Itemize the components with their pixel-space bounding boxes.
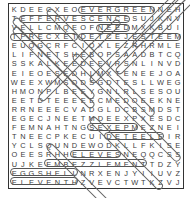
grid-cell[interactable]: E <box>156 32 165 41</box>
grid-cell[interactable]: V <box>87 178 96 187</box>
grid-cell[interactable]: E <box>113 96 122 105</box>
grid-cell[interactable]: E <box>19 14 28 23</box>
grid-cell[interactable]: Q <box>139 151 148 160</box>
grid-cell[interactable]: E <box>148 114 157 123</box>
grid-cell[interactable]: C <box>36 114 45 123</box>
grid-cell[interactable]: Z <box>122 41 131 50</box>
grid-cell[interactable]: E <box>113 114 122 123</box>
grid-cell[interactable]: S <box>87 123 96 132</box>
grid-cell[interactable]: Z <box>79 160 88 169</box>
grid-cell[interactable]: D <box>156 160 165 169</box>
grid-cell[interactable]: L <box>87 69 96 78</box>
grid-cell[interactable]: N <box>113 169 122 178</box>
grid-cell[interactable]: N <box>165 14 174 23</box>
grid-cell[interactable]: V <box>87 5 96 14</box>
grid-cell[interactable]: V <box>165 178 174 187</box>
grid-cell[interactable]: E <box>19 96 28 105</box>
grid-cell[interactable]: E <box>70 60 79 69</box>
grid-cell[interactable]: E <box>62 32 71 41</box>
grid-cell[interactable]: G <box>36 41 45 50</box>
grid-cell[interactable]: O <box>27 87 36 96</box>
grid-cell[interactable]: R <box>53 14 62 23</box>
grid-cell[interactable]: E <box>165 5 174 14</box>
grid-cell[interactable]: D <box>122 96 131 105</box>
grid-cell[interactable]: E <box>139 123 148 132</box>
grid-cell[interactable]: G <box>27 169 36 178</box>
grid-cell[interactable]: D <box>156 105 165 114</box>
grid-cell[interactable]: V <box>165 60 174 69</box>
grid-cell[interactable]: L <box>53 87 62 96</box>
grid-cell[interactable]: C <box>70 41 79 50</box>
grid-cell[interactable]: W <box>10 78 19 87</box>
grid-cell[interactable]: O <box>79 23 88 32</box>
grid-cell[interactable]: Q <box>148 151 157 160</box>
grid-cell[interactable]: U <box>53 142 62 151</box>
grid-cell[interactable]: E <box>10 114 19 123</box>
grid-cell[interactable]: O <box>96 51 105 60</box>
grid-cell[interactable]: E <box>70 87 79 96</box>
grid-cell[interactable]: D <box>139 51 148 60</box>
grid-cell[interactable]: E <box>44 105 53 114</box>
grid-cell[interactable]: L <box>130 87 139 96</box>
grid-cell[interactable]: T <box>96 32 105 41</box>
grid-cell[interactable]: E <box>70 14 79 23</box>
grid-cell[interactable]: N <box>156 5 165 14</box>
grid-cell[interactable]: E <box>87 32 96 41</box>
grid-cell[interactable]: E <box>19 123 28 132</box>
grid-cell[interactable]: N <box>36 123 45 132</box>
grid-cell[interactable]: Z <box>173 169 182 178</box>
grid-cell[interactable]: H <box>79 69 88 78</box>
grid-cell[interactable]: E <box>36 132 45 141</box>
grid-cell[interactable]: M <box>19 87 28 96</box>
grid-cell[interactable]: W <box>87 142 96 151</box>
grid-cell[interactable]: T <box>79 114 88 123</box>
grid-cell[interactable]: Z <box>79 178 88 187</box>
grid-cell[interactable]: J <box>122 169 131 178</box>
grid-cell[interactable]: K <box>10 5 19 14</box>
grid-cell[interactable]: L <box>36 23 45 32</box>
grid-cell[interactable]: M <box>53 160 62 169</box>
grid-cell[interactable]: D <box>36 96 45 105</box>
grid-cell[interactable]: R <box>27 32 36 41</box>
grid-cell[interactable]: O <box>165 69 174 78</box>
grid-cell[interactable]: N <box>156 123 165 132</box>
grid-cell[interactable]: K <box>53 60 62 69</box>
grid-cell[interactable]: C <box>113 178 122 187</box>
grid-cell[interactable]: E <box>165 123 174 132</box>
grid-cell[interactable]: A <box>79 105 88 114</box>
grid-cell[interactable]: E <box>122 78 131 87</box>
grid-cell[interactable]: H <box>139 41 148 50</box>
grid-cell[interactable]: N <box>105 14 114 23</box>
grid-cell[interactable]: X <box>139 23 148 32</box>
grid-cell[interactable]: V <box>173 14 182 23</box>
grid-cell[interactable]: C <box>79 132 88 141</box>
grid-cell[interactable]: K <box>156 14 165 23</box>
grid-cell[interactable]: S <box>53 69 62 78</box>
grid-cell[interactable]: F <box>10 123 19 132</box>
grid-cell[interactable]: I <box>156 142 165 151</box>
grid-cell[interactable]: I <box>148 60 157 69</box>
grid-cell[interactable]: R <box>173 132 182 141</box>
grid-cell[interactable]: A <box>44 123 53 132</box>
grid-cell[interactable]: O <box>10 151 19 160</box>
grid-cell[interactable]: T <box>122 132 131 141</box>
grid-cell[interactable]: R <box>105 5 114 14</box>
grid-cell[interactable]: L <box>122 142 131 151</box>
grid-cell[interactable]: L <box>105 105 114 114</box>
grid-cell[interactable]: G <box>79 123 88 132</box>
grid-cell[interactable]: N <box>27 105 36 114</box>
grid-cell[interactable]: U <box>156 169 165 178</box>
grid-cell[interactable]: F <box>139 142 148 151</box>
grid-cell[interactable]: E <box>148 96 157 105</box>
grid-cell[interactable]: N <box>122 151 131 160</box>
grid-cell[interactable]: E <box>87 151 96 160</box>
grid-cell[interactable]: E <box>139 69 148 78</box>
grid-cell[interactable]: X <box>96 169 105 178</box>
grid-cell[interactable]: E <box>165 78 174 87</box>
grid-cell[interactable]: G <box>173 78 182 87</box>
grid-cell[interactable]: L <box>148 132 157 141</box>
grid-cell[interactable]: G <box>19 114 28 123</box>
grid-cell[interactable]: R <box>130 41 139 50</box>
grid-cell[interactable]: T <box>156 51 165 60</box>
grid-cell[interactable]: C <box>19 142 28 151</box>
